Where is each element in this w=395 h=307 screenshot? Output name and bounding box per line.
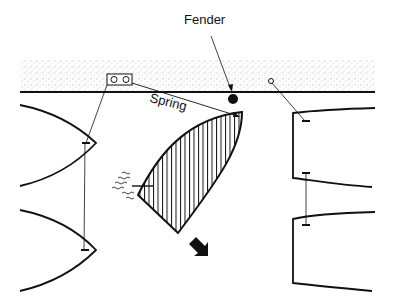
maneuvering-boat — [130, 105, 250, 240]
moored-boats-right — [272, 83, 375, 291]
cleat-icon — [107, 74, 132, 85]
diagram-canvas — [0, 0, 395, 307]
direction-arrow-icon — [189, 237, 208, 256]
bollard-icon — [269, 79, 274, 84]
moored-boats-left — [20, 85, 107, 291]
fender-label: Fender — [184, 12, 225, 27]
dock — [20, 60, 375, 92]
